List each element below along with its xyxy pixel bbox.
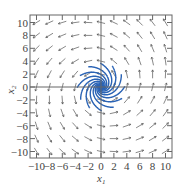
svg-text:4: 4	[124, 160, 130, 172]
svg-text:0: 0	[23, 81, 29, 93]
svg-text:8: 8	[23, 29, 29, 41]
svg-text:−2: −2	[16, 94, 28, 106]
y-axis-label: x2	[4, 85, 18, 95]
svg-text:−8: −8	[16, 133, 28, 145]
svg-text:−4: −4	[69, 160, 81, 172]
svg-text:2: 2	[23, 68, 29, 80]
svg-text:4: 4	[23, 55, 29, 67]
svg-text:10: 10	[17, 17, 29, 29]
svg-text:−10: −10	[11, 146, 29, 158]
svg-text:0: 0	[98, 160, 104, 172]
svg-text:6: 6	[137, 160, 143, 172]
svg-text:−6: −6	[56, 160, 68, 172]
x-axis-label: x1	[96, 172, 105, 186]
svg-text:−6: −6	[16, 120, 28, 132]
svg-text:6: 6	[23, 42, 29, 54]
svg-text:10: 10	[160, 160, 172, 172]
svg-text:−8: −8	[44, 160, 56, 172]
svg-text:8: 8	[150, 160, 156, 172]
phase-portrait: −10−8−6−4−202468101086420−2−4−6−8−10 x1 …	[0, 0, 179, 192]
svg-text:−4: −4	[16, 107, 28, 119]
svg-text:2: 2	[111, 160, 117, 172]
svg-text:−2: −2	[82, 160, 94, 172]
